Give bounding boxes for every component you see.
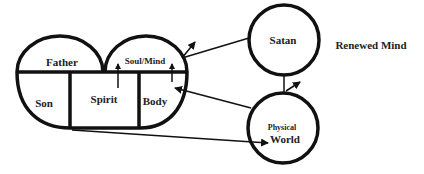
world-to-body-arrow — [175, 88, 251, 108]
satan-label: Satan — [270, 34, 297, 46]
satan-to-soul-line — [182, 38, 249, 58]
renewed-mind-label: Renewed Mind — [335, 39, 406, 51]
spirit-to-world-arrow — [72, 130, 268, 143]
spirit-label: Spirit — [91, 93, 118, 105]
father-label: Father — [46, 56, 78, 68]
soul-mind-label: Soul/Mind — [125, 56, 166, 66]
connector-outward-arrow — [286, 82, 300, 91]
diagram-canvas: Father Soul/Mind Son Spirit Body Satan P… — [0, 0, 424, 174]
physical-label: Physical — [268, 123, 296, 132]
world-label: World — [270, 133, 300, 145]
body-label: Body — [143, 95, 167, 107]
diagram-graphics — [0, 0, 424, 174]
son-label: Son — [35, 97, 53, 109]
